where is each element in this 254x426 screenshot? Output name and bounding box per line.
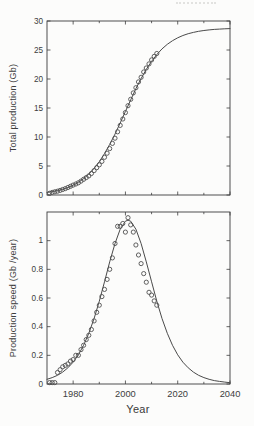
y-tick-label: 0.8 <box>32 265 44 274</box>
top-chart: 051015202530 <box>34 17 230 200</box>
y-tick-label: 30 <box>34 17 44 26</box>
y-tick-label: 0.2 <box>32 351 44 360</box>
data-point-marker <box>134 243 138 247</box>
x-tick-label: 2000 <box>115 389 136 399</box>
y-tick-label: 1 <box>38 236 43 245</box>
data-point-marker <box>139 262 143 266</box>
y-tick-label: 0 <box>38 191 43 200</box>
y-tick-label: 0 <box>38 380 43 389</box>
x-tick-label: 2020 <box>167 389 188 399</box>
bottom-chart-y-axis-label: Production speed (Gb /year) <box>8 239 18 357</box>
x-tick-label: 2040 <box>220 389 241 399</box>
data-point-marker <box>105 151 109 155</box>
x-tick-labels: 1980200020202040 <box>63 389 241 399</box>
observed-cumulative-production <box>48 51 159 195</box>
top-chart-y-axis-label: Total production (Gb) <box>8 64 18 152</box>
data-point-marker <box>102 287 106 291</box>
data-point-marker <box>110 141 114 145</box>
y-tick-label: 20 <box>34 75 44 84</box>
observed-production-speed <box>48 216 159 385</box>
y-tick-label: 10 <box>34 133 44 142</box>
data-point-marker <box>126 216 130 220</box>
data-point-marker <box>129 223 133 227</box>
bottom-chart: 00.20.40.60.811980200020202040 <box>32 212 241 399</box>
data-point-marker <box>150 293 154 297</box>
data-point-marker <box>144 280 148 284</box>
y-tick-label: 0.6 <box>32 294 44 303</box>
charts-svg: 05101520253000.20.40.60.8119802000202020… <box>0 0 254 426</box>
y-tick-label: 5 <box>38 162 43 171</box>
data-point-marker <box>123 230 127 234</box>
data-point-marker <box>136 253 140 257</box>
x-axis-label: Year <box>126 403 149 415</box>
logistic-fit-curve <box>47 29 230 193</box>
y-tick-labels: 00.20.40.60.81 <box>32 236 44 388</box>
figure: 05101520253000.20.40.60.8119802000202020… <box>0 0 254 426</box>
y-tick-label: 0.4 <box>32 322 44 331</box>
y-tick-label: 25 <box>34 46 44 55</box>
y-tick-labels: 051015202530 <box>34 17 44 200</box>
x-tick-label: 1980 <box>63 389 84 399</box>
data-point-marker <box>113 136 117 140</box>
data-point-marker <box>152 299 156 303</box>
data-point-marker <box>142 272 146 276</box>
data-point-marker <box>131 230 135 234</box>
data-point-marker <box>102 155 106 159</box>
data-point-marker <box>108 147 112 151</box>
plot-frame <box>47 21 230 195</box>
y-tick-label: 15 <box>34 104 44 113</box>
axis-ticks <box>47 21 230 195</box>
data-point-marker <box>100 159 104 163</box>
